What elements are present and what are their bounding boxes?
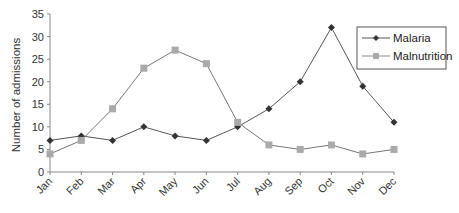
data-point (359, 150, 366, 157)
data-point (234, 119, 241, 126)
legend-label-malaria: Malaria (393, 32, 431, 44)
y-tick-label: 30 (32, 31, 44, 43)
x-tick-label: Apr (128, 175, 149, 196)
x-tick-label: Jan (33, 175, 54, 196)
data-point (172, 132, 179, 139)
data-point (140, 123, 147, 130)
y-tick-label: 0 (38, 166, 44, 178)
y-tick-label: 10 (32, 121, 44, 133)
data-point (140, 65, 147, 72)
y-axis-title: Number of admissions (10, 38, 22, 153)
data-point (328, 24, 335, 31)
x-tick-label: Mar (95, 175, 117, 197)
square-marker-icon (373, 53, 379, 59)
legend: Malaria Malnutrition (357, 27, 452, 69)
x-axis: JanFebMarAprMayJunJulAugSepOctNovDec (33, 172, 398, 198)
y-tick-label: 15 (32, 98, 44, 110)
data-point (391, 146, 398, 153)
x-tick-label: Jul (224, 175, 242, 193)
x-tick-label: Sep (282, 175, 304, 197)
x-tick-label: Aug (251, 175, 273, 197)
data-point (172, 47, 179, 54)
data-point (109, 105, 116, 112)
data-point (47, 150, 54, 157)
data-point (203, 60, 210, 67)
series-layer (47, 24, 398, 157)
data-point (47, 137, 54, 144)
legend-label-malnutrition: Malnutrition (393, 50, 452, 62)
y-tick-label: 5 (38, 143, 44, 155)
data-point (109, 137, 116, 144)
data-point (78, 137, 85, 144)
x-tick-label: Nov (345, 175, 368, 198)
data-point (203, 137, 210, 144)
y-tick-label: 25 (32, 53, 44, 65)
x-tick-label: Feb (64, 175, 86, 197)
data-point (297, 146, 304, 153)
x-tick-label: Oct (315, 175, 336, 196)
data-point (265, 141, 272, 148)
series-line-malaria (50, 28, 394, 141)
y-tick-label: 35 (32, 8, 44, 20)
x-tick-label: Jun (190, 175, 211, 196)
x-tick-label: Dec (376, 175, 399, 198)
line-chart: 05101520253035 JanFebMarAprMayJunJulAugS… (0, 0, 459, 213)
y-tick-label: 20 (32, 76, 44, 88)
data-point (328, 141, 335, 148)
x-tick-label: May (156, 175, 180, 199)
